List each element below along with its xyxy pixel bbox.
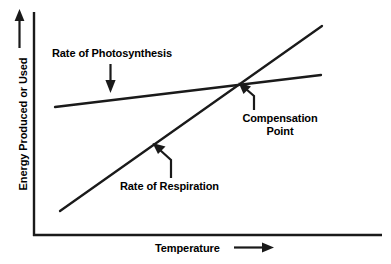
photosynthesis-annotation-arrow-icon [105,64,115,93]
respiration-annotation-arrow-icon [153,143,172,178]
chart-canvas [0,0,391,264]
compensation-annotation-arrow-icon [239,83,255,111]
photosynthesis-respiration-chart: Energy Produced or Used Temperature Rate… [0,0,391,264]
y-axis-title-wrapper: Energy Produced or Used [13,24,33,224]
photosynthesis-line [55,75,321,107]
x-axis-arrow-icon [234,242,274,252]
photosynthesis-series-label: Rate of Photosynthesis [52,47,172,60]
compensation-point-label-line2: Point [228,125,332,138]
y-axis-title: Energy Produced or Used [17,58,30,191]
compensation-point-label: Compensation Point [228,112,332,137]
respiration-series-label: Rate of Respiration [120,180,219,193]
x-axis-title: Temperature [155,242,220,255]
compensation-point-label-line1: Compensation [228,112,332,125]
